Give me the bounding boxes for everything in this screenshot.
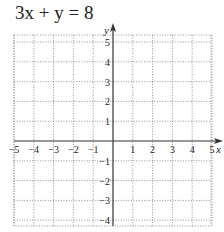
x-tick-label: 3 bbox=[170, 144, 175, 155]
y-tick-label: −3 bbox=[99, 195, 110, 206]
x-tick-label: −3 bbox=[48, 144, 59, 155]
x-tick-label: 1 bbox=[130, 144, 135, 155]
x-tick-label: −1 bbox=[88, 144, 99, 155]
y-tick-label: 4 bbox=[105, 57, 110, 68]
y-tick-label: −2 bbox=[99, 176, 110, 187]
y-tick-label: 5 bbox=[105, 37, 110, 48]
y-tick-label: 1 bbox=[105, 116, 110, 127]
x-tick-label: 5 bbox=[210, 144, 215, 155]
x-axis-label: x bbox=[215, 143, 221, 155]
x-tick-label: −2 bbox=[68, 144, 79, 155]
y-tick-label: 3 bbox=[105, 77, 110, 88]
x-tick-label: 2 bbox=[150, 144, 155, 155]
x-tick-label: −5 bbox=[9, 144, 20, 155]
y-tick-label: 2 bbox=[105, 96, 110, 107]
y-axis-label: y bbox=[103, 24, 109, 36]
y-tick-label: −4 bbox=[99, 215, 110, 226]
y-tick-label: −1 bbox=[99, 156, 110, 167]
x-tick-label: −4 bbox=[28, 144, 39, 155]
x-tick-label: 4 bbox=[190, 144, 195, 155]
coordinate-grid: xy−5−4−3−2−11234554321−1−2−3−4−5 bbox=[0, 0, 224, 232]
